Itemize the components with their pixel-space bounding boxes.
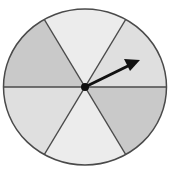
arrow-pivot bbox=[81, 83, 89, 91]
spinner-diagram bbox=[0, 0, 184, 171]
